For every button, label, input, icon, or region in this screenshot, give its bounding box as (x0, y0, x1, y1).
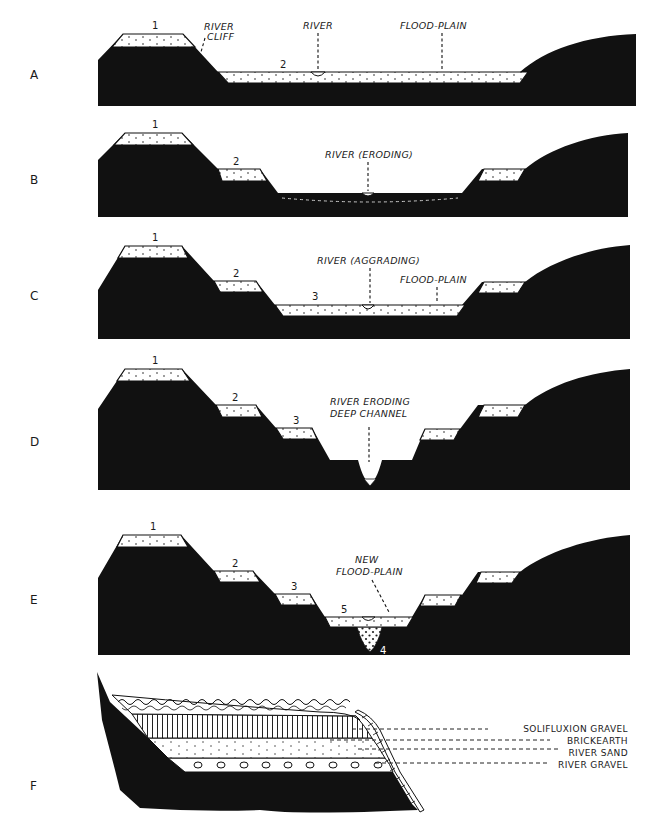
panel-b: B 1 2 RIVER (ERODING) (30, 119, 628, 217)
legend-river-sand: RIVER SAND (568, 748, 628, 758)
terrace-number-1-b: 1 (152, 119, 158, 130)
terrace-number-2-d: 2 (232, 392, 238, 403)
terrace-number-2-c: 2 (233, 268, 239, 279)
panel-e: E 1 2 3 5 4 NEW FLOOD-PLAIN (30, 521, 630, 656)
label-new-e: NEW (355, 554, 379, 565)
bedrock-d (98, 369, 630, 490)
river-gravel-pebbles (194, 762, 382, 768)
terrace-number-2-e: 2 (232, 558, 238, 569)
label-flood-plain-a: FLOOD-PLAIN (400, 20, 467, 31)
river-terrace-diagram: A 1 2 RIVERCLIFF RIVER FLOOD-PLAIN B 1 2… (0, 0, 659, 839)
panel-letter-b: B (30, 173, 38, 187)
label-flood-plain-c: FLOOD-PLAIN (400, 274, 467, 285)
panel-f: F SOLIFLUXION GRAV (30, 672, 628, 813)
terrace-number-3-c: 3 (312, 291, 318, 302)
terrace-2-deposit-d (216, 405, 262, 417)
terrace-number-3-e: 3 (291, 581, 297, 592)
terrace-2-deposit-right-d (478, 405, 525, 417)
label-river-eroding-d: RIVER ERODING (330, 396, 410, 407)
panel-letter-e: E (30, 593, 38, 607)
terrace-number-2-b: 2 (233, 156, 239, 167)
terrace-2-deposit-c (214, 281, 263, 292)
label-river-aggrading-c: RIVER (AGGRADING) (317, 255, 420, 266)
terrace-1-deposit-b (114, 133, 193, 145)
panel-letter-f: F (30, 779, 37, 793)
panel-letter-c: C (30, 289, 38, 303)
label-river-a: RIVER (303, 20, 333, 31)
river-sand-layer-f (148, 738, 385, 758)
panel-a: A 1 2 RIVERCLIFF RIVER FLOOD-PLAIN (30, 20, 636, 106)
terrace-3-deposit-right-d (420, 429, 460, 440)
panel-c: C 1 2 3 RIVER (AGGRADING) FLOOD-PLAIN (30, 232, 630, 339)
panel-letter-d: D (30, 435, 39, 449)
terrace-1-deposit-d (117, 369, 190, 381)
legend-brickearth: BRICKEARTH (567, 736, 628, 746)
brickearth-layer-f (132, 714, 372, 738)
terrace-number-1-a: 1 (152, 20, 158, 31)
legend-river-gravel: RIVER GRAVEL (558, 760, 628, 770)
terrace-number-2-a: 2 (280, 59, 286, 70)
label-river-cliff-a: RIVERCLIFF (204, 21, 234, 42)
legend-solifluxion-gravel: SOLIFLUXION GRAVEL (523, 724, 628, 734)
panel-d: D 1 2 3 RIVER ERODING DEEP CHANNEL (30, 355, 630, 490)
terrace-number-5-e: 5 (341, 604, 347, 615)
label-river-eroding-b: RIVER (ERODING) (325, 149, 413, 160)
terrace-1-deposit-c (118, 246, 188, 258)
terrace-number-1-e: 1 (150, 521, 156, 532)
panel-letter-a: A (30, 68, 39, 82)
arrow-river-cliff-a (201, 38, 205, 52)
terrace-number-3-d: 3 (293, 415, 299, 426)
terrace-2-deposit-b (218, 169, 267, 181)
label-flood-plain-e: FLOOD-PLAIN (336, 566, 403, 577)
label-deep-channel-d: DEEP CHANNEL (330, 408, 407, 419)
terrace-2-deposit-right-e (476, 572, 520, 583)
terrace-2-deposit-e (214, 571, 260, 582)
terrace-number-4-e: 4 (380, 645, 386, 656)
terrace-3-deposit-right-e (420, 595, 461, 606)
arrow-new-flood-plain-e (372, 580, 390, 614)
terrace-1-deposit-a (112, 34, 195, 47)
terrace-number-1-d: 1 (152, 355, 158, 366)
terrace-1-deposit-e (117, 535, 188, 547)
terrace-2-deposit-right-c (478, 282, 525, 293)
floodplain-deposit-a (218, 72, 528, 83)
terrace-number-1-c: 1 (152, 232, 158, 243)
terrace-3-deposit-d (276, 428, 317, 439)
terrace-2-deposit-right-b (478, 169, 525, 181)
terrace-3-deposit-e (275, 594, 316, 605)
